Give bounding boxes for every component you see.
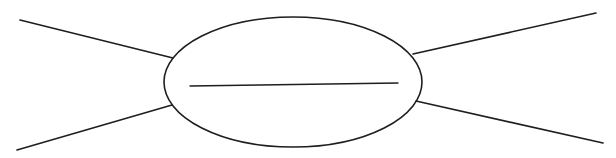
spoke-upper-right [413,13,596,54]
center-ellipse [164,17,422,147]
spoke-upper-left [20,20,173,58]
spider-map-diagram [0,0,616,158]
center-writing-line [190,83,398,86]
spoke-lower-right [416,101,603,143]
spoke-lower-left [17,105,172,150]
spokes-group [17,13,603,150]
